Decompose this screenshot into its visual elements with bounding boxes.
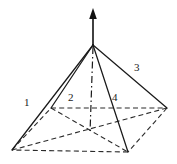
base-diagonal-back-right-to-front-left xyxy=(12,108,167,150)
edge-label-3: 3 xyxy=(134,62,140,73)
edge-label-2: 2 xyxy=(68,92,74,103)
base-edge-front-left-to-back-left xyxy=(12,108,51,150)
edge-label-4: 4 xyxy=(112,92,118,103)
edge-label-1: 1 xyxy=(24,97,30,108)
lateral-edge-4-apex-to-front-right xyxy=(93,45,128,152)
lateral-edge-3-apex-to-back-right xyxy=(93,45,167,108)
lateral-edges xyxy=(12,45,167,152)
pyramid-diagram-svg xyxy=(0,0,177,164)
base-diagonals xyxy=(12,108,167,152)
axis-arrow-icon xyxy=(89,8,97,45)
axis-arrow-head xyxy=(89,8,97,19)
base-edge-front-right-to-front-left xyxy=(12,150,128,152)
base-diagonal-back-left-to-front-right xyxy=(51,108,128,152)
base-edge-back-right-to-front-right xyxy=(128,108,167,152)
vertical-axis-dashdot xyxy=(90,47,93,133)
pyramid-figure: 1 2 3 4 xyxy=(0,0,177,164)
